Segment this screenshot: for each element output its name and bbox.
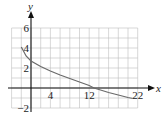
data-curve	[21, 47, 133, 99]
x-tick-label: 22	[132, 89, 143, 101]
y-axis-label: y	[27, 0, 33, 12]
y-tick-label: −2	[17, 102, 29, 114]
y-tick-label: 2	[24, 62, 30, 74]
x-axis-label: x	[155, 82, 161, 94]
chart: x y 41222642−2	[0, 0, 166, 117]
y-tick-label: 6	[24, 22, 30, 34]
x-tick-label: 12	[84, 89, 95, 101]
x-axis-arrow-icon	[148, 85, 155, 91]
y-axis-arrow-icon	[28, 11, 34, 18]
x-tick-label: 4	[48, 89, 54, 101]
